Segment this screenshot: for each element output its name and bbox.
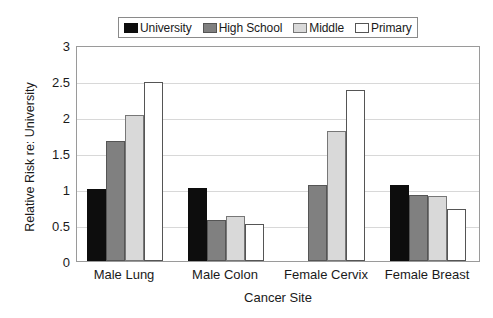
x-axis-title: Cancer Site (76, 291, 480, 304)
legend-item-primary: Primary (355, 22, 412, 34)
bar (346, 90, 365, 261)
legend-label-middle: Middle (309, 22, 344, 34)
bar (207, 220, 226, 261)
bar-group (87, 47, 163, 261)
bar-group (188, 47, 264, 261)
y-axis-title: Relative Risk re: University (23, 47, 37, 267)
legend-swatch-university (124, 23, 138, 33)
bar (245, 224, 264, 261)
y-axis-title-holder: Relative Risk re: University (8, 0, 28, 318)
legend-swatch-high-school (203, 23, 217, 33)
bar (226, 216, 245, 261)
bar-chart: University High School Middle Primary Re… (0, 0, 493, 318)
plot-inner (77, 47, 479, 261)
bar (87, 189, 106, 261)
x-tick-label: Female Breast (357, 268, 493, 281)
bar (327, 131, 346, 261)
legend-label-high-school: High School (219, 22, 283, 34)
bar (106, 141, 125, 261)
bar (188, 188, 207, 261)
bar (308, 185, 327, 261)
bar (144, 82, 163, 261)
chart-legend: University High School Middle Primary (118, 17, 418, 38)
bar-group (390, 47, 466, 261)
legend-item-high-school: High School (203, 22, 283, 34)
bar (409, 195, 428, 261)
legend-swatch-middle (293, 23, 307, 33)
legend-label-primary: Primary (371, 22, 412, 34)
bar (447, 209, 466, 261)
legend-item-middle: Middle (293, 22, 344, 34)
bar-group (289, 47, 365, 261)
plot-area (76, 46, 480, 262)
legend-swatch-primary (355, 23, 369, 33)
legend-label-university: University (140, 22, 192, 34)
bar (428, 196, 447, 261)
bar (125, 115, 144, 261)
legend-item-university: University (124, 22, 192, 34)
bar (390, 185, 409, 261)
